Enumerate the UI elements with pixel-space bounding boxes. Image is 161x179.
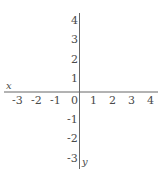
x-tick-label: 3	[128, 95, 135, 107]
x-tick-label: -3	[12, 95, 23, 107]
x-tick-label: 1	[90, 95, 97, 107]
y-tick-label: 2	[71, 54, 78, 66]
y-axis-label: y	[82, 157, 88, 167]
y-tick-label: -3	[67, 153, 78, 165]
x-tick-label: 2	[109, 95, 116, 107]
x-tick-label: -2	[31, 95, 42, 107]
y-tick-label: 1	[71, 73, 78, 85]
x-tick-label: -1	[50, 95, 61, 107]
x-axis-label: x	[6, 81, 12, 91]
y-tick-label: -1	[67, 114, 78, 126]
x-tick-label: 0	[71, 95, 78, 107]
coordinate-plane	[0, 0, 161, 179]
x-tick-label: 4	[147, 95, 154, 107]
y-tick-label: 4	[71, 15, 78, 27]
y-tick-label: 3	[71, 34, 78, 46]
y-tick-label: -2	[67, 133, 78, 145]
